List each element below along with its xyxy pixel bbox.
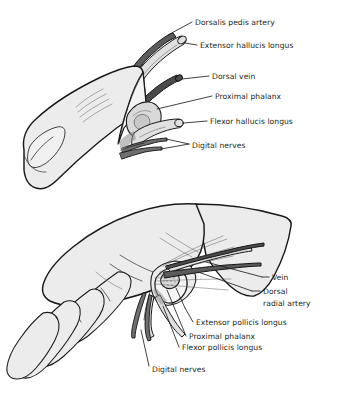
label-digital-nerves-toe: Digital nerves: [192, 141, 245, 150]
label-vein: Vein: [272, 273, 289, 282]
label-proximal-phalanx-hand: Proximal phalanx: [189, 332, 256, 341]
great-toe-panel: Dorsalis pedis artery Extensor hallucis …: [24, 18, 294, 189]
illustration-canvas: Dorsalis pedis artery Extensor hallucis …: [0, 0, 337, 411]
label-proximal-phalanx: Proximal phalanx: [215, 92, 282, 101]
fhl-cut-end: [175, 119, 183, 126]
label-dorsal-vein: Dorsal vein: [212, 72, 256, 81]
label-extensor-pollicis-longus: Extensor pollicis longus: [196, 318, 287, 327]
leader-digital-nerves-b: [161, 144, 189, 149]
little-finger: [7, 312, 59, 379]
label-radial-artery: radial artery: [263, 299, 311, 308]
label-flexor-pollicis-longus: Flexor pollicis longus: [182, 343, 262, 352]
leader-extensor-pollicis-longus: [185, 308, 193, 322]
label-flexor-hallucis-longus: Flexor hallucis longus: [210, 117, 293, 126]
leader-dorsalis-pedis-artery: [168, 22, 192, 35]
label-dorsal: Dorsal: [263, 287, 288, 296]
label-dorsalis-pedis-artery: Dorsalis pedis artery: [195, 18, 275, 27]
leader-flexor-hallucis-longus: [184, 121, 207, 123]
leader-dorsal-vein: [182, 76, 209, 79]
thumb-digital-nerve-2: [132, 293, 146, 338]
anatomy-figure: Dorsalis pedis artery Extensor hallucis …: [0, 0, 337, 411]
label-digital-nerves-hand: Digital nerves: [152, 365, 205, 374]
label-extensor-hallucis-longus: Extensor hallucis longus: [200, 41, 293, 50]
leader-extensor-hallucis-longus: [185, 43, 197, 45]
leader-digital-nerves-a: [166, 139, 189, 144]
leader-proximal-phalanx: [157, 96, 212, 109]
hand-panel: Vein Dorsal radial artery Extensor polli…: [7, 204, 311, 379]
